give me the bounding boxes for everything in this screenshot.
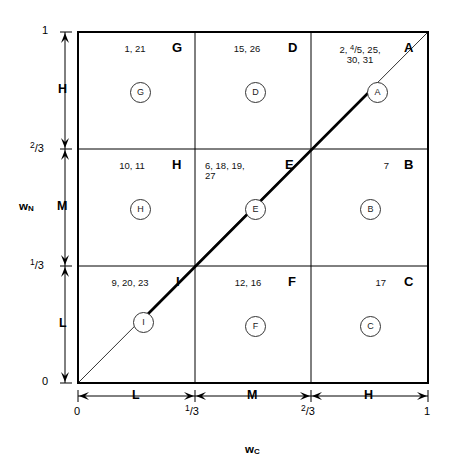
cell-letter-E: E bbox=[285, 158, 294, 172]
y-range-letter-H: H bbox=[58, 83, 67, 96]
cell-circle-A: A bbox=[367, 82, 388, 103]
cell-numbers-H: 10, 11 bbox=[102, 161, 162, 171]
cell-numbers-I: 9, 20, 23 bbox=[97, 278, 163, 288]
cell-numbers-A: 2, 4/5, 25, 30, 31 bbox=[318, 44, 402, 65]
cell-letter-A: A bbox=[404, 41, 413, 55]
cell-numbers-C: 17 bbox=[352, 278, 386, 288]
x-tick-label-two-thirds: 2/3 bbox=[301, 404, 315, 418]
cell-letter-H: H bbox=[172, 158, 181, 172]
y-range-letter-L: L bbox=[59, 317, 67, 330]
x-range-letter-M: M bbox=[247, 389, 257, 402]
x-tick-two-thirds-num: 2 bbox=[301, 403, 306, 413]
cell-letter-C: C bbox=[404, 275, 413, 289]
y-tick-two-thirds-num: 2 bbox=[30, 140, 35, 150]
y-tick-label-one-third: 1/3 bbox=[30, 258, 44, 272]
cell-numbers-F: 12, 16 bbox=[219, 278, 277, 288]
cell-circle-E: E bbox=[245, 199, 266, 220]
x-tick-label-0: 0 bbox=[74, 406, 80, 418]
x-tick-two-thirds-den: 3 bbox=[309, 405, 315, 417]
y-tick-label-1-text: 1 bbox=[42, 24, 48, 36]
cell-circle-B: B bbox=[360, 199, 381, 220]
cell-letter-G: G bbox=[172, 41, 182, 55]
figure-canvas: 1 2/3 1/3 0 H M L wN 0 1/3 2/3 1 L M H bbox=[0, 0, 455, 476]
y-tick-label-1: 1 bbox=[42, 25, 48, 37]
x-tick-one-third-num: 1 bbox=[185, 403, 190, 413]
y-tick-one-third-num: 1 bbox=[30, 257, 35, 267]
cell-circle-I: I bbox=[133, 312, 154, 333]
y-axis-title-text: w bbox=[19, 200, 28, 212]
cell-letter-F: F bbox=[288, 275, 296, 289]
cell-numbers-B: 7 bbox=[355, 161, 389, 171]
plot-svg bbox=[0, 0, 455, 476]
x-tick-label-one-third: 1/3 bbox=[185, 404, 199, 418]
y-tick-one-third-den: 3 bbox=[38, 259, 44, 271]
y-tick-label-two-thirds: 2/3 bbox=[30, 141, 44, 155]
cell-numbers-D: 15, 26 bbox=[216, 44, 278, 54]
x-axis-title-text: w bbox=[245, 443, 254, 455]
y-tick-two-thirds-den: 3 bbox=[38, 142, 44, 154]
cell-circle-H: H bbox=[130, 199, 151, 220]
cell-circle-C: C bbox=[360, 316, 381, 337]
cell-numbers-E: 6, 18, 19, 27 bbox=[205, 161, 277, 181]
y-tick-label-0: 0 bbox=[42, 376, 48, 388]
cell-circle-D: D bbox=[245, 82, 266, 103]
cell-numbers-G: 1, 21 bbox=[105, 44, 165, 54]
cell-letter-D: D bbox=[288, 41, 297, 55]
cell-numbers-A-line2: 30, 31 bbox=[347, 54, 373, 65]
cell-circle-F: F bbox=[245, 316, 266, 337]
cell-letter-I: I bbox=[176, 275, 180, 289]
y-axis-title-sub: N bbox=[28, 204, 34, 213]
y-axis-title: wN bbox=[19, 200, 34, 213]
x-axis-title: wC bbox=[245, 443, 260, 456]
y-tick-label-0-text: 0 bbox=[42, 375, 48, 387]
y-range-letter-M: M bbox=[57, 200, 67, 213]
x-tick-one-third-den: 3 bbox=[193, 405, 199, 417]
x-range-letter-L: L bbox=[132, 389, 140, 402]
x-tick-label-1: 1 bbox=[424, 406, 430, 418]
x-axis-title-sub: C bbox=[254, 447, 260, 456]
x-range-letter-H: H bbox=[364, 389, 373, 402]
cell-circle-G: G bbox=[130, 82, 151, 103]
cell-letter-B: B bbox=[404, 158, 413, 172]
cell-numbers-E-line2: 27 bbox=[205, 170, 216, 181]
cell-A-frac-num: 4 bbox=[350, 43, 354, 52]
